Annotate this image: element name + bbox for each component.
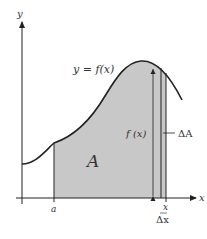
y-axis-label: y	[16, 8, 23, 19]
area-label: A	[85, 151, 99, 171]
height-label: f (x)	[125, 128, 146, 139]
x-point-label: x	[163, 202, 168, 212]
delta-area-label: ΔA	[178, 128, 193, 139]
curve-label: y = f(x)	[72, 63, 114, 76]
area-region	[54, 61, 166, 198]
x-axis-label: x	[199, 192, 205, 203]
area-under-curve-diagram: y x y = f(x) A a x f (x) ΔA Δx	[0, 0, 207, 239]
a-label: a	[51, 204, 56, 214]
delta-x-label: Δx	[156, 214, 169, 225]
